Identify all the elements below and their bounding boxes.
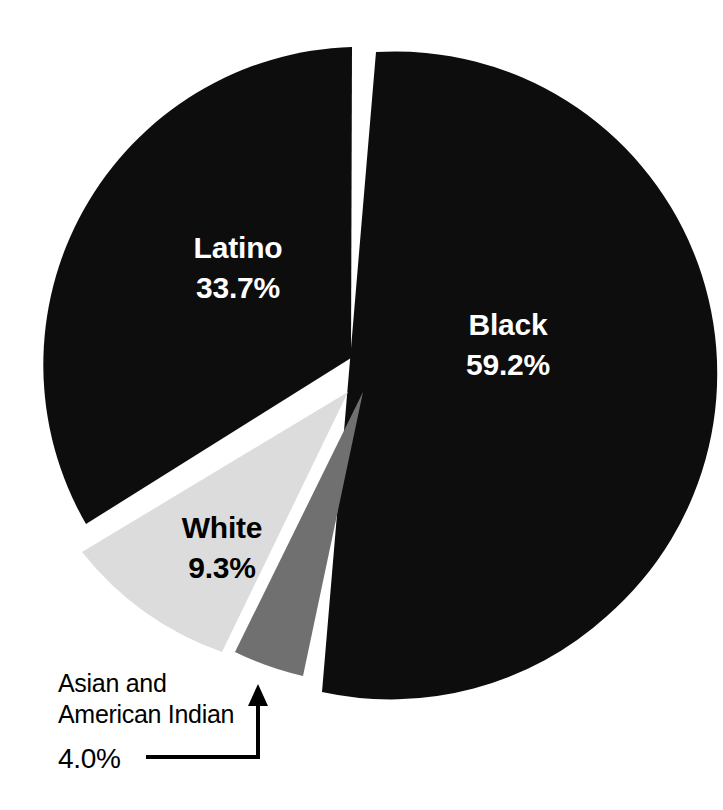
pie-slice-label-white-value: 9.3% (188, 551, 256, 584)
pie-slice-label-black-value: 59.2% (466, 348, 550, 381)
callout-label-asian-value: 4.0% (58, 743, 121, 774)
pie-chart-canvas: Black 59.2% Latino 33.7% White 9.3% Asia… (0, 0, 723, 810)
pie-slice-label-black-name: Black (468, 308, 548, 341)
pie-slice-label-latino-value: 33.7% (196, 271, 280, 304)
pie-chart-figure: Black 59.2% Latino 33.7% White 9.3% Asia… (0, 0, 723, 810)
pie-slice-label-white-name: White (182, 511, 263, 544)
pie-slice-label-latino-name: Latino (194, 231, 283, 264)
callout-label-asian-line1: Asian and (58, 669, 167, 697)
callout-arrowhead-icon (248, 684, 268, 706)
callout-label-asian-line2: American Indian (58, 700, 234, 728)
